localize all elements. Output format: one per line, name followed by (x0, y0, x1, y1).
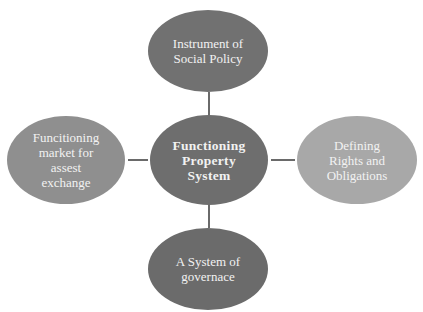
center-label: Functioning Property System (172, 138, 245, 183)
node-label: Defining Rights and Obligations (327, 138, 388, 183)
node-label: Funcitioning market for assest exchange (33, 130, 99, 190)
connector-right (271, 159, 295, 161)
node-defining-rights-and-obligations: Defining Rights and Obligations (297, 116, 417, 204)
node-label: Instrument of Social Policy (173, 36, 243, 66)
node-instrument-of-social-policy: Instrument of Social Policy (148, 10, 268, 92)
connector-top (208, 92, 210, 115)
connector-left (128, 159, 148, 161)
node-label: A System of governace (176, 254, 240, 284)
node-functioning-market: Funcitioning market for assest exchange (7, 116, 125, 204)
node-functioning-property-system: Functioning Property System (150, 115, 268, 205)
node-system-of-governance: A System of governace (148, 228, 268, 310)
connector-bottom (208, 205, 210, 228)
